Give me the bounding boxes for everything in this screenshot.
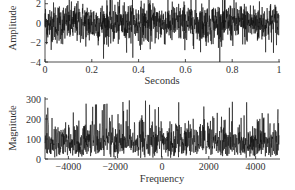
magnitude-x-label: Frequency	[140, 173, 185, 184]
y-tick-label: 0	[36, 154, 41, 165]
x-tick-label: 4000	[246, 161, 266, 172]
y-tick-label: 2	[36, 0, 41, 9]
y-tick-label: 300	[26, 94, 41, 105]
figure: 00.20.40.60.81 −4−202 Seconds Amplitude …	[0, 0, 295, 190]
x-tick-label: 1	[277, 64, 282, 75]
magnitude-spectrum-trace	[45, 100, 279, 158]
x-tick-label: 0	[43, 64, 48, 75]
x-tick-label: 2000	[199, 161, 219, 172]
magnitude-y-label: Magnitude	[7, 105, 18, 151]
x-tick-label: 0	[160, 161, 165, 172]
x-tick-label: 0.8	[226, 64, 239, 75]
y-tick-label: 100	[26, 134, 41, 145]
magnitude-plot: −4000−2000020004000 0100200300 Frequency…	[7, 94, 280, 185]
x-tick-label: 0.2	[86, 64, 99, 75]
x-tick-label: −2000	[102, 161, 128, 172]
amplitude-x-ticks: 00.20.40.60.81	[43, 59, 282, 75]
y-tick-label: 200	[26, 114, 41, 125]
amplitude-signal-trace	[45, 0, 279, 62]
x-tick-label: 0.6	[179, 64, 192, 75]
amplitude-x-label: Seconds	[145, 75, 180, 86]
x-tick-label: 0.4	[132, 64, 145, 75]
magnitude-x-ticks: −4000−2000020004000	[56, 156, 266, 172]
amplitude-y-label: Amplitude	[7, 5, 18, 50]
y-tick-label: −4	[30, 57, 41, 68]
y-tick-label: −2	[30, 37, 41, 48]
amplitude-plot: 00.20.40.60.81 −4−202 Seconds Amplitude	[7, 0, 282, 86]
y-tick-label: 0	[36, 18, 41, 29]
x-tick-label: −4000	[56, 161, 82, 172]
